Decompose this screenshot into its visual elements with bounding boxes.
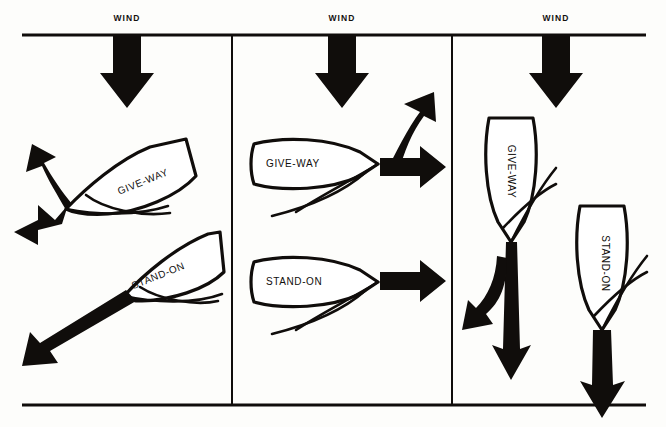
boat-hull — [577, 206, 627, 330]
boat-hull — [486, 118, 536, 242]
boat-stand-on-2 — [251, 257, 446, 334]
boat-hull — [251, 257, 378, 306]
course-arrow-straight — [380, 146, 446, 188]
wind-arrow-3 — [529, 36, 583, 108]
sailing-rules-diagram: WIND WIND WIND GIVE-WAY STAND-ON GIVE-WA… — [0, 0, 666, 427]
wind-label-panel-3: WIND — [542, 13, 569, 23]
course-arrow-curved — [462, 256, 507, 330]
wind-label-panel-2: WIND — [328, 13, 355, 23]
wind-arrow-2 — [315, 36, 369, 108]
course-arrow-straight — [380, 260, 446, 302]
panel-beating — [14, 36, 224, 366]
boat-give-way-3 — [462, 118, 556, 380]
boat-stand-on-3 — [577, 206, 647, 418]
panel-reaching — [251, 36, 446, 334]
boat-hull — [251, 139, 378, 188]
wind-label-panel-1: WIND — [113, 13, 140, 23]
course-arrow-straight — [22, 290, 136, 366]
boat-stand-on-1 — [22, 232, 224, 366]
panel-running — [462, 36, 647, 418]
course-arrow-curved — [26, 144, 72, 210]
boat-hull — [66, 139, 196, 214]
course-arrow-straight — [14, 205, 68, 245]
boat-give-way-2 — [251, 92, 446, 216]
boat-hull — [124, 232, 224, 301]
boat-give-way-1 — [14, 139, 196, 245]
wind-arrow-1 — [100, 36, 154, 108]
diagram-canvas — [0, 0, 666, 427]
